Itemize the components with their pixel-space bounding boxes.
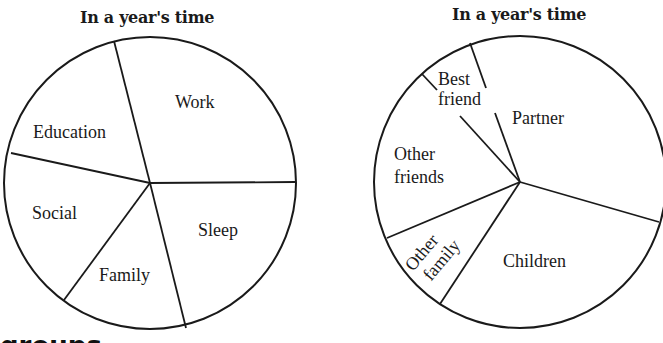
slice-label-other-friends-line2: friends [394,167,444,187]
slice-label-children: Children [503,251,566,271]
slice-label-social: Social [32,203,77,223]
partial-section-heading: groups [0,333,102,343]
slice-label-education: Education [33,122,106,142]
pie-activities-graphic: Work Sleep Family Social Education [0,0,330,343]
slice-label-best-friend-line1: Best [438,69,470,89]
slice-label-sleep: Sleep [198,220,238,240]
slice-label-best-friend-line2: friend [438,89,481,109]
slice-label-family: Family [99,265,150,285]
pie-chart-relationships: In a year's time Partner Children Other … [330,0,663,343]
slice-label-other-friends-line1: Other [394,144,435,164]
slice-label-work: Work [175,92,215,112]
divider-work-sleep [150,182,295,183]
pie-relationships-graphic: Partner Children Other family Other frie… [330,0,663,343]
pie-chart-activities: In a year's time Work Sleep Family Socia… [0,0,330,343]
slice-label-partner: Partner [512,108,564,128]
